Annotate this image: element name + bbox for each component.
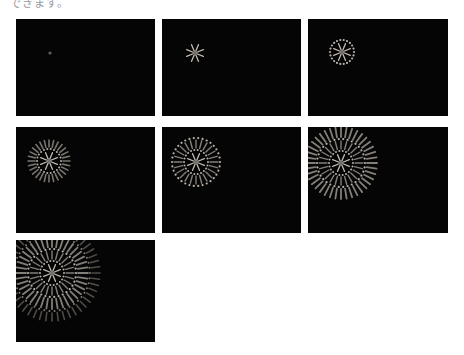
firework-burst-icon: [16, 240, 155, 342]
firework-burst-icon: [16, 127, 155, 233]
firework-frame-2: [162, 19, 301, 116]
firework-frame-5: [162, 127, 301, 233]
firework-frame-6: [308, 127, 448, 233]
firework-burst-icon: [308, 19, 448, 116]
firework-frame-7: [16, 240, 155, 342]
caption-text: できます。: [10, 0, 69, 10]
firework-burst-icon: [162, 19, 301, 116]
firework-frame-4: [16, 127, 155, 233]
firework-frame-1: [16, 19, 155, 116]
firework-burst-icon: [162, 127, 301, 233]
firework-burst-icon: [16, 19, 155, 116]
firework-frame-3: [308, 19, 448, 116]
firework-burst-icon: [308, 127, 448, 233]
